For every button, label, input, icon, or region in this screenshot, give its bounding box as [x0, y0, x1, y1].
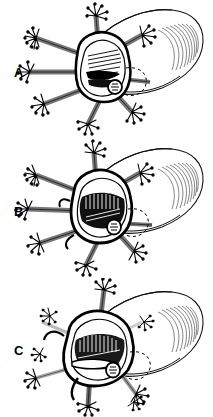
panel-c: C	[0, 278, 213, 417]
panel-label-b: B	[14, 205, 23, 218]
figure-canvas: A	[0, 0, 213, 417]
panel-b-drawing	[0, 139, 213, 278]
tuft-detached-left	[31, 348, 46, 362]
panel-c-drawing	[0, 278, 213, 417]
panel-a: A	[0, 0, 213, 139]
panel-a-drawing	[0, 0, 213, 139]
panel-label-c: C	[14, 344, 23, 357]
panel-b: B	[0, 139, 213, 278]
panel-label-a: A	[14, 66, 23, 79]
